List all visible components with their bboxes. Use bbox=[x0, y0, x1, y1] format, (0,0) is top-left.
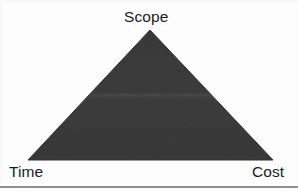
vertex-label-cost: Cost bbox=[252, 163, 284, 181]
vertex-label-scope: Scope bbox=[124, 8, 168, 26]
vertex-label-time: Time bbox=[9, 163, 43, 181]
bottom-margin bbox=[0, 188, 298, 192]
triangle-shape bbox=[28, 30, 273, 160]
project-triangle-diagram: Scope Time Cost bbox=[0, 0, 298, 192]
